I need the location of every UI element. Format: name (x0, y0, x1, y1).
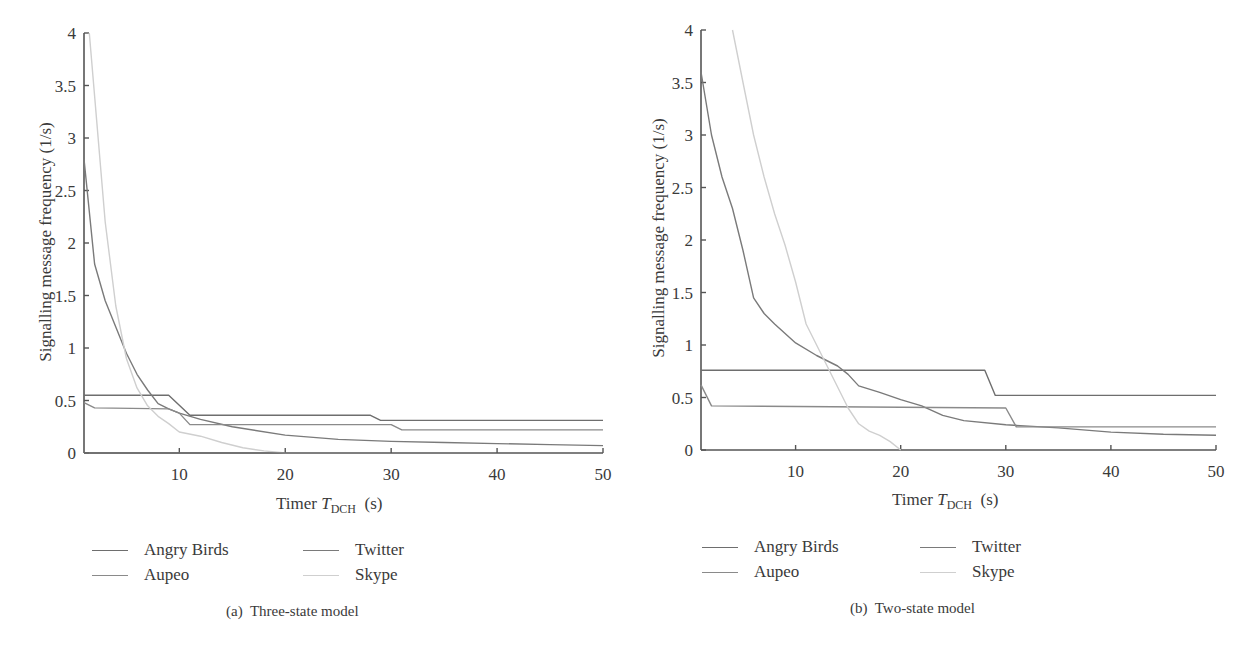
legend-line-icon (92, 550, 128, 551)
x-tick-label: 30 (997, 462, 1014, 481)
x-tick-label: 30 (383, 465, 400, 484)
series-line-skype (733, 30, 901, 450)
series-line-angry-birds (701, 370, 1216, 395)
x-axis-var: T (937, 490, 946, 509)
legend-item-angry-birds: Angry Birds (92, 540, 229, 560)
series-line-twitter (84, 159, 603, 446)
series-line-aupeo (84, 403, 603, 430)
series-line-aupeo (701, 385, 1216, 427)
x-axis-sub: DCH (331, 502, 356, 516)
caption-a: (a) Three-state model (226, 603, 359, 620)
series-line-skype (89, 33, 285, 453)
legend-item-aupeo: Aupeo (702, 562, 799, 582)
x-tick-label: 40 (489, 465, 506, 484)
chart-panel-b: 00.511.522.533.541020304050 Signalling m… (617, 0, 1239, 650)
x-axis-var: T (321, 494, 330, 513)
x-axis-suffix: (s) (356, 494, 382, 513)
x-tick-label: 50 (595, 465, 612, 484)
x-tick-label: 50 (1208, 462, 1225, 481)
y-tick-label: 4 (68, 24, 77, 43)
y-tick-label: 3 (68, 129, 77, 148)
series-line-angry-birds (84, 395, 603, 420)
y-tick-label: 2.5 (55, 182, 76, 201)
plot-area-a: 00.511.522.533.541020304050 (0, 0, 622, 520)
series-line-twitter (701, 72, 1216, 435)
x-axis-suffix: (s) (972, 490, 998, 509)
y-tick-label: 1.5 (672, 284, 693, 303)
y-tick-label: 1 (685, 336, 694, 355)
y-tick-label: 0 (68, 444, 77, 463)
y-tick-label: 2 (685, 231, 694, 250)
y-tick-label: 1 (68, 339, 77, 358)
chart-panel-a: 00.511.522.533.541020304050 Signalling m… (0, 0, 622, 650)
y-tick-label: 0.5 (672, 389, 693, 408)
y-tick-label: 0.5 (55, 392, 76, 411)
legend-line-icon (702, 572, 738, 573)
y-axis-label-b: Signalling message frequency (1/s) (649, 118, 669, 358)
legend-item-angry-birds: Angry Birds (702, 537, 839, 557)
x-tick-label: 20 (277, 465, 294, 484)
legend-line-icon (920, 572, 956, 573)
y-tick-label: 2 (68, 234, 77, 253)
plot-area-b: 00.511.522.533.541020304050 (617, 0, 1244, 520)
legend-line-icon (702, 547, 738, 548)
y-tick-label: 3 (685, 126, 694, 145)
legend-item-twitter: Twitter (920, 537, 1021, 557)
x-tick-label: 40 (1102, 462, 1119, 481)
x-tick-label: 20 (892, 462, 909, 481)
x-axis-label-b: Timer TDCH (s) (892, 490, 998, 513)
legend-item-aupeo: Aupeo (92, 565, 189, 585)
x-axis-sub: DCH (947, 498, 972, 512)
x-axis-label-prefix: Timer (892, 490, 937, 509)
y-axis-label-a: Signalling message frequency (1/s) (36, 122, 56, 362)
x-tick-label: 10 (787, 462, 804, 481)
x-tick-label: 10 (171, 465, 188, 484)
legend-line-icon (303, 575, 339, 576)
legend-line-icon (303, 550, 339, 551)
legend-item-skype: Skype (920, 562, 1015, 582)
legend-line-icon (92, 575, 128, 576)
y-tick-label: 2.5 (672, 179, 693, 198)
y-tick-label: 4 (685, 21, 694, 40)
legend-line-icon (920, 547, 956, 548)
y-tick-label: 1.5 (55, 287, 76, 306)
legend-item-skype: Skype (303, 565, 398, 585)
legend-item-twitter: Twitter (303, 540, 404, 560)
x-axis-label-prefix: Timer (276, 494, 321, 513)
y-tick-label: 3.5 (55, 77, 76, 96)
x-axis-label-a: Timer TDCH (s) (276, 494, 382, 517)
caption-b: (b) Two-state model (850, 600, 975, 617)
y-tick-label: 3.5 (672, 74, 693, 93)
y-tick-label: 0 (685, 441, 694, 460)
